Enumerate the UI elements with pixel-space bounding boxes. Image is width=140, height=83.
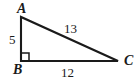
side-length-label-ac: 13 <box>64 22 77 35</box>
triangle-figure: A B C 5 13 12 <box>0 0 140 83</box>
right-angle-marker-icon <box>21 53 29 61</box>
vertex-label-b: B <box>13 63 22 77</box>
vertex-label-c: C <box>124 54 133 68</box>
side-length-label-bc: 12 <box>61 66 74 79</box>
side-length-label-ab: 5 <box>9 33 16 46</box>
vertex-label-a: A <box>17 2 26 16</box>
